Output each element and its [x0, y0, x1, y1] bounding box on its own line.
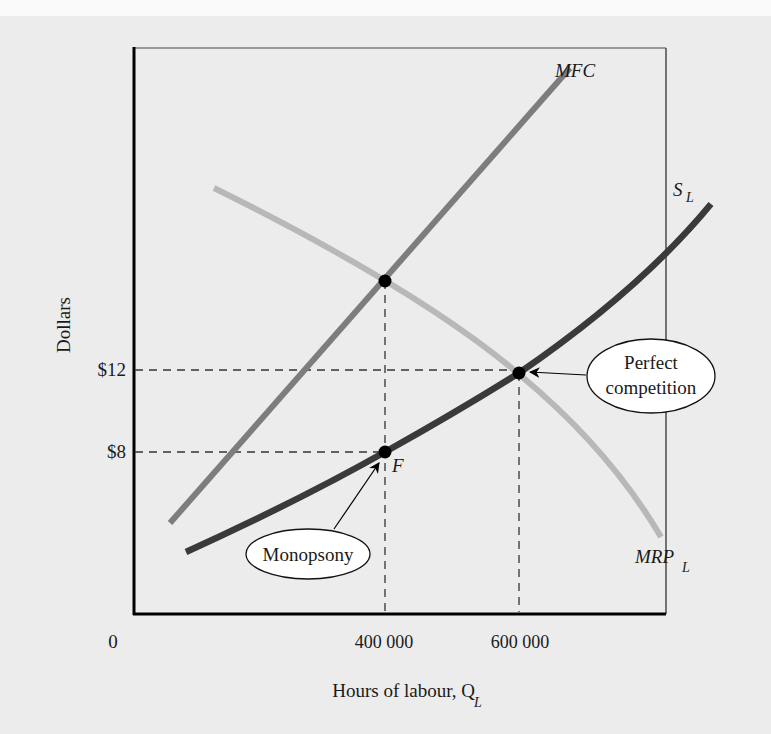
- y-axis-title: Dollars: [53, 297, 74, 353]
- supply-label-subscript: L: [685, 190, 694, 205]
- perfect-competition-label-line1: Perfect: [624, 352, 679, 373]
- monopsony-chart: Monopsony Perfect competition MFC S L MR…: [0, 0, 771, 734]
- mrp-label: MRP: [634, 546, 674, 567]
- y-tick-12: $12: [98, 359, 127, 380]
- mfc-mrp-point: [379, 275, 392, 288]
- x-tick-600000: 600 000: [491, 632, 550, 652]
- mfc-curve: [170, 68, 570, 523]
- perfect-competition-callout: [587, 339, 715, 413]
- y-tick-8: $8: [107, 441, 126, 462]
- perfect-competition-label-line2: competition: [606, 377, 697, 398]
- supply-label: S: [673, 179, 683, 200]
- x-axis-title-subscript: L: [473, 695, 482, 710]
- x-tick-400000: 400 000: [355, 632, 414, 652]
- x-axis-title: Hours of labour, Q: [332, 680, 475, 701]
- mrp-label-subscript: L: [681, 560, 690, 575]
- monopsony-label: Monopsony: [263, 544, 354, 565]
- perfect-competition-arrow: [530, 372, 586, 375]
- competitive-point: [513, 367, 526, 380]
- x-origin-label: 0: [108, 631, 118, 652]
- mfc-label: MFC: [554, 60, 595, 81]
- f-point-label: F: [391, 455, 404, 476]
- monopsony-point: [379, 446, 392, 459]
- plot-frame: [133, 47, 666, 615]
